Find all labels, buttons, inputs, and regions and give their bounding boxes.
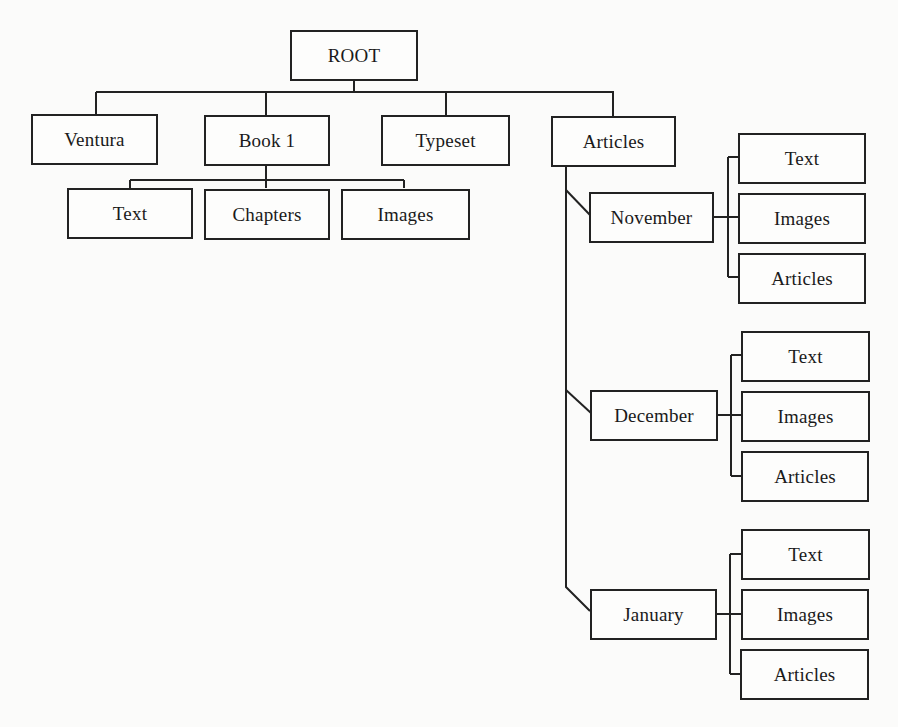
node-label: Chapters — [232, 204, 301, 226]
node-label: Articles — [774, 664, 836, 686]
node-december-articles: Articles — [741, 451, 869, 502]
node-january-images: Images — [741, 589, 869, 640]
node-label: Ventura — [64, 129, 125, 151]
node-book1: Book 1 — [204, 115, 330, 166]
node-label: Images — [774, 208, 830, 230]
node-label: Text — [788, 346, 822, 368]
node-december-images: Images — [741, 391, 870, 442]
node-label: Text — [788, 544, 822, 566]
node-label: Text — [785, 148, 819, 170]
node-december-text: Text — [741, 331, 870, 382]
node-label: Images — [777, 604, 833, 626]
connector-to-december — [566, 390, 591, 413]
node-label: Images — [777, 406, 833, 428]
node-january: January — [590, 589, 717, 640]
node-january-text: Text — [741, 529, 870, 580]
connector-articles-trunk — [566, 166, 590, 611]
node-label: ROOT — [328, 45, 381, 67]
node-label: Articles — [771, 268, 833, 290]
node-root: ROOT — [290, 30, 418, 81]
node-label: January — [623, 604, 684, 626]
node-november-text: Text — [738, 133, 866, 184]
node-november-articles: Articles — [738, 253, 866, 304]
node-label: November — [611, 207, 693, 229]
node-january-articles: Articles — [740, 649, 869, 700]
node-book1-text: Text — [67, 188, 193, 239]
node-label: Typeset — [415, 130, 475, 152]
node-december: December — [590, 390, 718, 441]
node-ventura: Ventura — [31, 114, 158, 165]
node-november-images: Images — [738, 193, 866, 244]
node-articles: Articles — [551, 116, 676, 167]
connector-to-november — [566, 190, 590, 215]
node-book1-images: Images — [341, 189, 470, 240]
node-november: November — [589, 192, 714, 243]
node-label: Images — [377, 204, 433, 226]
node-label: Book 1 — [239, 130, 296, 152]
node-label: Articles — [583, 131, 645, 153]
node-label: December — [614, 405, 694, 427]
node-book1-chapters: Chapters — [204, 189, 330, 240]
node-label: Text — [113, 203, 147, 225]
node-label: Articles — [774, 466, 836, 488]
node-typeset: Typeset — [381, 115, 510, 166]
